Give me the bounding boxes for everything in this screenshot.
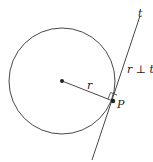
- perpendicular-relation-label: r ⊥ t: [127, 63, 153, 76]
- center-point: [60, 79, 64, 83]
- tangent-diagram: t r ⊥ t r P: [0, 0, 153, 162]
- point-p-label: P: [116, 98, 125, 111]
- tangent-line-label: t: [138, 7, 143, 20]
- radius-label: r: [87, 79, 93, 92]
- tangent-point: [111, 99, 115, 103]
- tangent-line: [92, 16, 140, 160]
